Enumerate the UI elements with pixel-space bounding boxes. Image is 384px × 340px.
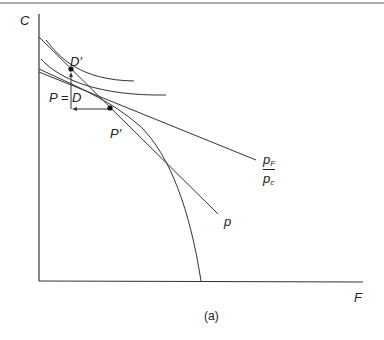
x-axis — [39, 281, 363, 282]
x-axis-label: F — [354, 291, 362, 304]
arrow-head-left — [72, 107, 77, 111]
indifference-curve-upper — [46, 40, 134, 81]
diagram-canvas — [0, 0, 384, 340]
arrow-head-up — [69, 72, 73, 77]
label-price-p: p — [224, 215, 231, 228]
label-p-prime: P′ — [110, 127, 121, 140]
relative-price-numerator: pF — [263, 153, 275, 170]
point-p-prime — [107, 105, 112, 110]
figure-caption: (a) — [204, 310, 219, 322]
price-line-p — [39, 37, 218, 214]
label-d-prime: D′ — [70, 55, 82, 68]
relative-price-denominator: pc — [263, 170, 275, 187]
y-axis-label: C — [20, 14, 29, 27]
label-relative-price: pF pc — [263, 153, 275, 187]
label-p-equals-d: P = D — [49, 91, 81, 104]
price-line-relative — [39, 72, 256, 160]
